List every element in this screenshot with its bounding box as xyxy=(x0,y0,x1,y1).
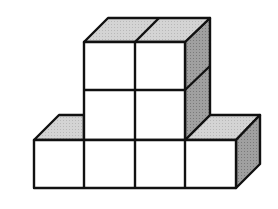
cube-structure-diagram xyxy=(0,0,278,209)
left-cube-top-face xyxy=(34,115,84,140)
